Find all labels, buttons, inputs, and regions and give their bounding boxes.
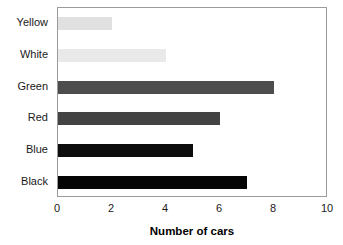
x-axis-title: Number of cars [57, 225, 327, 237]
category-label-white: White [20, 48, 48, 61]
category-label-blue: Blue [26, 143, 48, 156]
bar-yellow [58, 17, 112, 30]
category-label-black: Black [21, 175, 48, 188]
bar-chart: YellowWhiteGreenRedBlueBlack 0246810 Num… [0, 0, 343, 245]
bars-container [58, 8, 326, 196]
x-tick-6: 6 [216, 201, 222, 215]
bar-row [58, 17, 328, 30]
bar-row [58, 176, 328, 189]
x-tick-8: 8 [270, 201, 276, 215]
category-axis-labels: YellowWhiteGreenRedBlueBlack [0, 7, 52, 197]
bar-blue [58, 144, 193, 157]
category-label-yellow: Yellow [17, 16, 48, 29]
x-axis-tick-labels: 0246810 [57, 201, 327, 217]
bar-green [58, 81, 274, 94]
bar-black [58, 176, 247, 189]
x-tick-0: 0 [54, 201, 60, 215]
bar-red [58, 112, 220, 125]
bar-row [58, 144, 328, 157]
bar-white [58, 49, 166, 62]
x-tick-10: 10 [321, 201, 333, 215]
x-tick-2: 2 [108, 201, 114, 215]
cut-off-title-remnant [57, 0, 327, 3]
plot-area [57, 7, 327, 197]
bar-row [58, 112, 328, 125]
category-label-green: Green [17, 80, 48, 93]
bar-row [58, 81, 328, 94]
bar-row [58, 49, 328, 62]
x-tick-4: 4 [162, 201, 168, 215]
category-label-red: Red [28, 111, 48, 124]
